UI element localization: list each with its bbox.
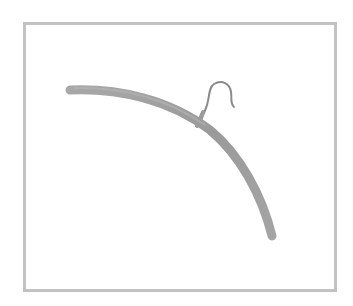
hanger-illustration <box>0 0 353 306</box>
hanger-bar-icon <box>70 88 272 236</box>
